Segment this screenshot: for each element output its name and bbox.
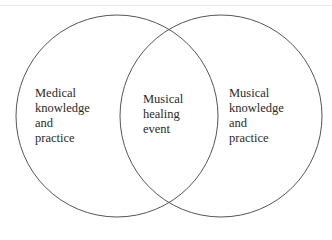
label-line: healing bbox=[143, 107, 183, 122]
label-line: practice bbox=[35, 131, 90, 146]
medical-knowledge-label: Medical knowledge and practice bbox=[35, 86, 90, 146]
label-line: practice bbox=[229, 131, 284, 146]
musical-knowledge-label: Musical knowledge and practice bbox=[229, 86, 284, 146]
label-line: knowledge bbox=[35, 101, 90, 116]
label-line: Medical bbox=[35, 86, 90, 101]
label-line: and bbox=[35, 116, 90, 131]
label-line: Musical bbox=[229, 86, 284, 101]
label-line: and bbox=[229, 116, 284, 131]
musical-healing-event-label: Musical healing event bbox=[143, 92, 183, 137]
label-line: knowledge bbox=[229, 101, 284, 116]
label-line: Musical bbox=[143, 92, 183, 107]
label-line: event bbox=[143, 122, 183, 137]
